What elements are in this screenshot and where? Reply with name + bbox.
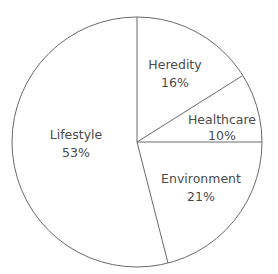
slice-name: Lifestyle [50, 127, 103, 142]
slice-name: Heredity [148, 57, 202, 72]
slice-value: 53% [62, 145, 90, 160]
slice-name: Healthcare [188, 112, 256, 127]
slice-name: Environment [161, 171, 241, 186]
slice-value: 16% [161, 75, 189, 90]
slice-value: 10% [208, 128, 236, 143]
pie-chart: Heredity 16% Healthcare 10% Environment … [0, 0, 278, 274]
slice-value: 21% [187, 189, 215, 204]
